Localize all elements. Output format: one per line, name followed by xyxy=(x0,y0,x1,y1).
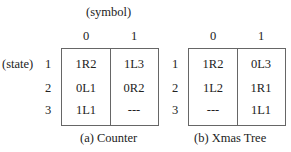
row-header: 3 xyxy=(169,103,181,118)
table-cell: 0R2 xyxy=(110,81,158,96)
table-cell: 1R2 xyxy=(189,57,237,72)
table-cell: 0L1 xyxy=(62,81,110,96)
table-cell: --- xyxy=(110,103,158,118)
column-header: 1 xyxy=(237,29,285,44)
table-caption: (a) Counter xyxy=(80,131,137,146)
table-cell: --- xyxy=(189,103,237,118)
symbol-axis-label: (symbol) xyxy=(86,5,131,20)
table-cell: 1L2 xyxy=(189,81,237,96)
row-header: 2 xyxy=(42,81,54,96)
table-cell: 1L1 xyxy=(237,103,285,118)
table-cell: 1R2 xyxy=(62,57,110,72)
table-cell: 0L3 xyxy=(237,57,285,72)
table-cell: 1R1 xyxy=(237,81,285,96)
column-header: 0 xyxy=(189,29,237,44)
row-header: 2 xyxy=(169,81,181,96)
table-cell: 1L1 xyxy=(62,103,110,118)
row-header: 1 xyxy=(42,57,54,72)
row-header: 1 xyxy=(169,57,181,72)
table-caption: (b) Xmas Tree xyxy=(194,131,266,146)
table-cell: 1L3 xyxy=(110,57,158,72)
column-header: 1 xyxy=(110,29,158,44)
row-header: 3 xyxy=(42,103,54,118)
state-axis-label: (state) xyxy=(2,57,33,72)
column-header: 0 xyxy=(62,29,110,44)
